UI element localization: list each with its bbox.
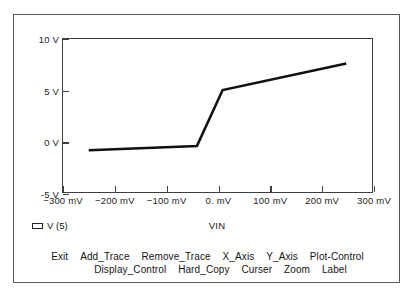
x-tick-label-300: 300 mV (357, 195, 391, 206)
menu-item-remove-trace[interactable]: Remove_Trace (141, 250, 210, 263)
x-tick-300: 300 mV (374, 186, 375, 192)
menu-item-x-axis[interactable]: X_Axis (223, 250, 255, 263)
x-tick-label-100: 100 mV (253, 195, 287, 206)
menu-item-y-axis[interactable]: Y_Axis (266, 250, 298, 263)
menu-item-curser[interactable]: Curser (242, 263, 273, 276)
x-tick-zero: 0. mV (219, 186, 220, 192)
trace-line-v5 (89, 63, 346, 150)
y-tick-0: 0 V (63, 142, 69, 143)
y-tick-label-10: 10 V (39, 34, 59, 45)
menu-row-secondary: Display_Control Hard_Copy Curser Zoom La… (14, 263, 401, 276)
x-tick-100: 100 mV (270, 186, 271, 192)
legend-swatch-icon (32, 223, 43, 229)
y-tick-label-0: 0 V (44, 137, 59, 148)
legend: V (5) (32, 220, 68, 231)
menu-item-add-trace[interactable]: Add_Trace (80, 250, 129, 263)
x-tick-label-minus100: −100 mV (147, 195, 187, 206)
x-tick-label-minus300: −300 mV (43, 195, 83, 206)
plot-region: 10 V 5 V 0 V -5 V −300 mV −200 mV (14, 15, 401, 284)
menu-item-plot-control[interactable]: Plot-Control (310, 250, 364, 263)
x-tick-minus200: −200 mV (115, 186, 116, 192)
menu-item-display-control[interactable]: Display_Control (94, 263, 166, 276)
plot-window-frame: 10 V 5 V 0 V -5 V −300 mV −200 mV (13, 14, 400, 283)
legend-label-v5: V (5) (47, 220, 68, 231)
x-tick-minus100: −100 mV (167, 186, 168, 192)
menu-item-label[interactable]: Label (322, 263, 347, 276)
x-tick-200: 200 mV (322, 186, 323, 192)
x-tick-label-200: 200 mV (305, 195, 339, 206)
plot-axes-box: 10 V 5 V 0 V -5 V −300 mV −200 mV (62, 38, 373, 193)
x-tick-minus300: −300 mV (63, 186, 64, 192)
screenshot-canvas: 10 V 5 V 0 V -5 V −300 mV −200 mV (0, 0, 416, 296)
menu-item-exit[interactable]: Exit (51, 250, 68, 263)
trace-svg (63, 39, 372, 192)
x-tick-label-zero: 0. mV (206, 195, 232, 206)
menu-item-zoom[interactable]: Zoom (284, 263, 310, 276)
y-tick-10: 10 V (63, 39, 69, 40)
x-tick-label-minus200: −200 mV (95, 195, 135, 206)
x-axis-title: VIN (209, 220, 226, 231)
y-tick-label-5: 5 V (44, 85, 59, 96)
y-tick-5: 5 V (63, 91, 69, 92)
menu-item-hard-copy[interactable]: Hard_Copy (178, 263, 229, 276)
menu-bar: Exit Add_Trace Remove_Trace X_Axis Y_Axi… (14, 250, 401, 276)
menu-row-primary: Exit Add_Trace Remove_Trace X_Axis Y_Axi… (14, 250, 401, 263)
